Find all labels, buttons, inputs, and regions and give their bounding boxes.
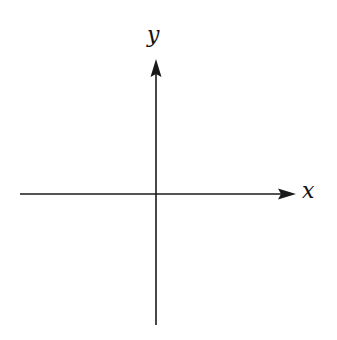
axes-graphic bbox=[0, 0, 337, 340]
y-axis-label: y bbox=[147, 24, 159, 46]
coordinate-diagram: y x bbox=[0, 0, 337, 340]
x-axis-label: x bbox=[302, 180, 314, 202]
